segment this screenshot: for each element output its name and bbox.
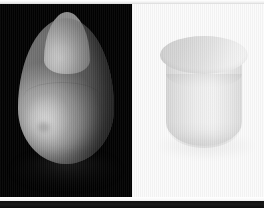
panel-right[interactable]: Rendered cylinder on white background <box>132 4 264 197</box>
panel-container: Rendered egg on black background Rendere… <box>0 4 264 197</box>
cylinder-cast-shadow <box>158 134 254 158</box>
egg-cast-shadow <box>12 154 120 188</box>
egg-specular-highlight <box>28 96 68 140</box>
shape-comparison-viewer: Rendered egg on black background Rendere… <box>0 0 264 208</box>
egg-shape <box>18 18 114 164</box>
egg-surface-blemish <box>38 122 50 132</box>
cylinder-shape <box>158 30 250 166</box>
bottom-dark-band <box>0 201 264 208</box>
cylinder-top-rim <box>160 36 248 74</box>
panel-left[interactable]: Rendered egg on black background <box>0 4 132 197</box>
